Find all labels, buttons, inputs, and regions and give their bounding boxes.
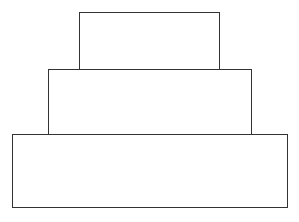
top-tier-box [79, 12, 220, 70]
bottom-tier-box [12, 134, 288, 208]
tiered-diagram [0, 0, 299, 222]
middle-tier-box [48, 69, 252, 135]
